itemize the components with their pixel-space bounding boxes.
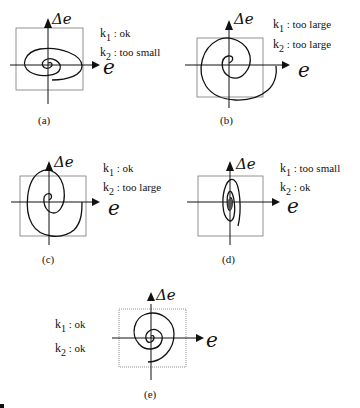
- caption: (e): [144, 388, 156, 400]
- k2-label: k2 : too small: [100, 46, 160, 59]
- e-axis-arrow-icon: [92, 198, 100, 206]
- caption: (b): [220, 114, 233, 126]
- figure-label-fragment: [0, 404, 4, 408]
- caption: (c): [42, 253, 54, 265]
- trajectory-core: [228, 198, 233, 210]
- e-axis-arrow-icon: [196, 334, 204, 342]
- k2-label: k2 : ok: [55, 342, 86, 355]
- panel-a: Δe e k1 : ok k2 : too small (a): [0, 0, 180, 130]
- e-axis-arrow-icon: [92, 61, 100, 69]
- k1-label: k1 : ok: [103, 162, 134, 175]
- panel-c: Δe e k1 : ok k2 : too large (c): [0, 130, 180, 270]
- trajectory-spiral: [201, 38, 276, 100]
- delta-e-axis-arrow-icon: [225, 20, 233, 30]
- phase-plane-c: [0, 130, 180, 270]
- k1-label: k1 : too small: [280, 162, 340, 175]
- phase-plane-b: [180, 0, 360, 130]
- panel-b: Δe e k1 : too large k2 : too large (b): [180, 0, 360, 130]
- x-axis-label: e: [206, 328, 218, 352]
- delta-e-axis-arrow-icon: [226, 161, 234, 171]
- delta-e-axis-arrow-icon: [147, 292, 155, 301]
- k1-label: k1 : ok: [100, 27, 131, 40]
- k2-label: k2 : too large: [103, 181, 161, 194]
- k1-label: k1 : too large: [273, 18, 331, 31]
- k2-label: k2 : ok: [280, 181, 311, 194]
- panel-e: Δe e k1 : ok k2 : ok (e): [0, 270, 360, 408]
- trajectory-spiral: [25, 48, 82, 80]
- caption: (a): [38, 114, 50, 126]
- caption: (d): [222, 253, 235, 265]
- x-axis-label: e: [298, 58, 310, 82]
- x-axis-label: e: [287, 194, 299, 218]
- delta-e-axis-arrow-icon: [44, 18, 52, 28]
- phase-plane-e: [0, 270, 360, 408]
- y-axis-label: Δe: [156, 286, 176, 304]
- phase-plane-a: [0, 0, 180, 130]
- trajectory-spiral: [27, 170, 82, 236]
- phase-plane-d: [180, 130, 360, 270]
- y-axis-label: Δe: [54, 153, 74, 171]
- k2-label: k2 : too large: [273, 38, 331, 51]
- y-axis-label: Δe: [234, 10, 254, 28]
- k1-label: k1 : ok: [55, 318, 86, 331]
- panel-d: Δe e k1 : too small k2 : ok (d): [180, 130, 360, 270]
- y-axis-label: Δe: [236, 155, 256, 173]
- y-axis-label: Δe: [52, 10, 72, 28]
- e-axis-arrow-icon: [272, 198, 280, 206]
- x-axis-label: e: [108, 196, 120, 220]
- e-axis-arrow-icon: [282, 61, 290, 69]
